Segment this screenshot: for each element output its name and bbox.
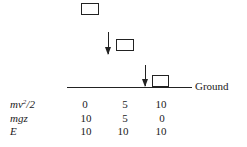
cell-potential-1: 10 <box>74 112 98 124</box>
block-mid <box>116 39 134 51</box>
cell-total-1: 10 <box>74 125 98 137</box>
cell-kinetic-1: 0 <box>73 98 97 110</box>
row-label-total: E <box>10 125 17 137</box>
cell-potential-3: 0 <box>150 112 174 124</box>
cell-total-3: 10 <box>149 125 173 137</box>
ground-label: Ground <box>195 80 229 92</box>
cell-kinetic-3: 10 <box>149 98 173 110</box>
velocity-arrow-ground <box>145 65 146 86</box>
block-ground <box>152 75 169 87</box>
block-start <box>81 3 99 15</box>
row-label-kinetic: mv2/2 <box>10 98 35 110</box>
cell-total-2: 10 <box>111 125 135 137</box>
ground-line <box>67 87 192 88</box>
cell-kinetic-2: 5 <box>113 98 137 110</box>
row-label-potential: mgz <box>10 112 28 124</box>
cell-potential-2: 5 <box>113 112 137 124</box>
velocity-arrow-mid <box>108 32 109 54</box>
